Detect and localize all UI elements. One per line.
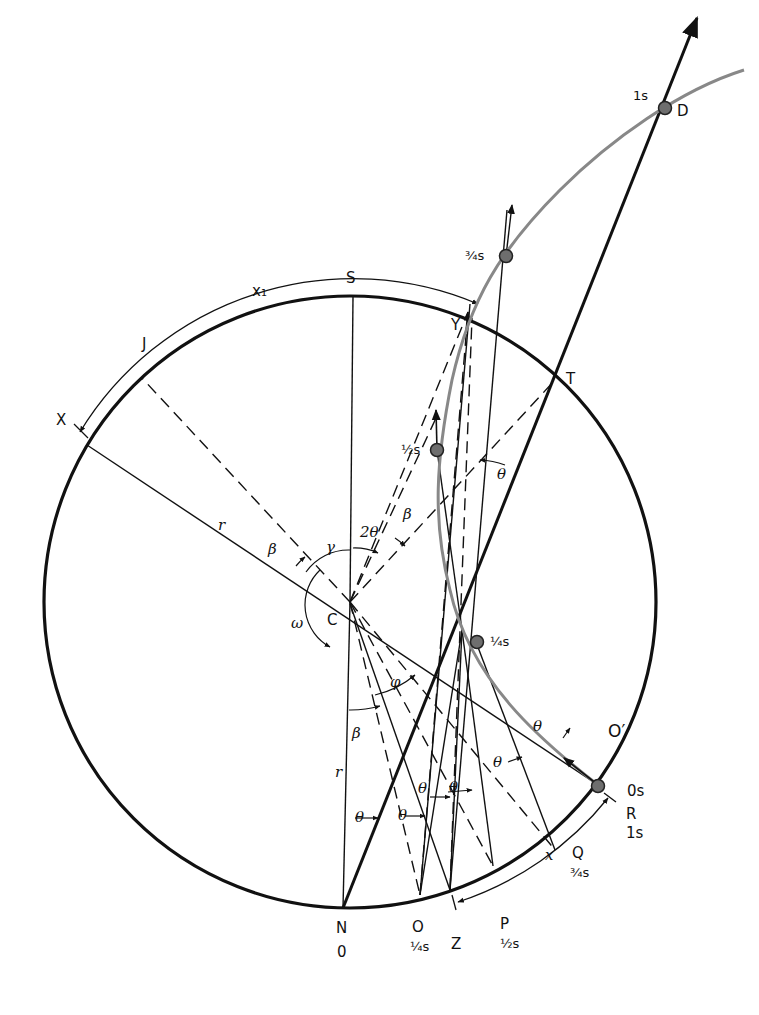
label-theta-1: θ [355, 810, 364, 825]
label-0s: 0s [627, 784, 644, 799]
label-r-upper: r [218, 518, 225, 533]
line-N-D [343, 18, 697, 908]
label-N-time: 0 [337, 945, 347, 960]
arc-x [458, 798, 608, 902]
label-three-quarter-s: ¾s [465, 249, 484, 262]
label-R: R [626, 807, 636, 822]
beta-arc-upper [296, 557, 305, 566]
label-beta-lower: β [352, 726, 361, 741]
dot-half-s [431, 444, 444, 457]
radius-CS [350, 297, 353, 602]
label-theta-4: θ [449, 780, 458, 795]
label-Q-time: ¾s [570, 866, 589, 879]
label-quarter-s: ¼s [490, 635, 509, 648]
omega-arc [305, 570, 330, 647]
label-theta-2: θ [398, 808, 407, 823]
radius-CN [343, 602, 350, 908]
dot-1s [659, 102, 672, 115]
label-theta-top: θ [497, 467, 506, 482]
beta-arc-right [395, 538, 405, 546]
label-R-time: 1s [626, 826, 643, 841]
label-O: O [412, 920, 424, 935]
label-gamma: γ [326, 540, 335, 555]
trajectory-curve [438, 70, 744, 785]
label-x: x [545, 848, 553, 863]
label-half-s: ½s [401, 443, 420, 456]
label-N: N [336, 921, 347, 936]
label-beta-upper: β [268, 542, 277, 557]
label-two-theta: 2θ [360, 525, 379, 540]
label-O-prime: O′ [608, 723, 625, 740]
label-O-time: ¼s [410, 940, 429, 953]
label-J: J [142, 337, 146, 352]
arc-x1 [80, 279, 478, 432]
label-omega: ω [291, 616, 303, 631]
label-P-time: ½s [500, 937, 519, 950]
label-T: T [566, 372, 575, 387]
label-Q: Q [572, 846, 584, 861]
label-1s-top: 1s [633, 89, 648, 102]
dot-0s [592, 780, 605, 793]
beta-arc-lower [349, 706, 380, 710]
label-P: P [500, 917, 509, 932]
label-theta-6: θ [533, 719, 542, 734]
label-theta-3: θ [418, 781, 427, 796]
dot-three-quarter-s [500, 250, 513, 263]
radius-CX-to-Oprime [87, 445, 598, 785]
dot-quarter-s [471, 636, 484, 649]
diagram-canvas [0, 0, 759, 1015]
label-Y: Y [451, 318, 460, 333]
label-D: D [677, 104, 689, 119]
label-phi: φ [390, 675, 401, 690]
label-beta-right: β [403, 507, 412, 522]
label-x1: x₁ [252, 284, 267, 299]
label-theta-5: θ [493, 755, 502, 770]
label-r-lower: r [335, 765, 342, 780]
label-X: X [56, 413, 66, 428]
label-Z: Z [451, 937, 461, 952]
label-C: C [327, 613, 337, 628]
label-S: S [346, 271, 356, 286]
